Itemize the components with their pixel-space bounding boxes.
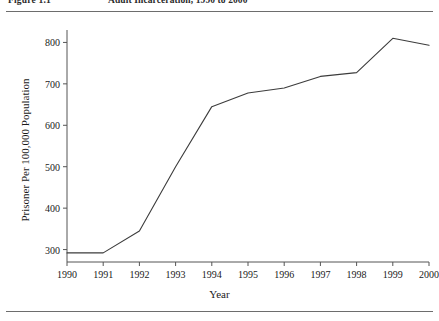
x-tick-label: 1997 xyxy=(310,269,330,280)
x-axis-title: Year xyxy=(0,288,439,300)
figure-container: Figure 1.1 Adult Incarceration, 1990 to … xyxy=(0,0,439,321)
x-tick-label: 2000 xyxy=(419,269,439,280)
x-tick-label: 1996 xyxy=(274,269,294,280)
x-tick-label: 1995 xyxy=(238,269,258,280)
axis-layer xyxy=(67,30,429,262)
axis-ticks xyxy=(63,42,429,266)
x-tick-label: 1993 xyxy=(166,269,186,280)
x-tick-label: 1991 xyxy=(93,269,113,280)
data-series-line xyxy=(67,38,429,253)
x-tick-label: 1998 xyxy=(347,269,367,280)
x-tick-label: 1992 xyxy=(129,269,149,280)
x-tick-label: 1999 xyxy=(383,269,403,280)
y-axis-title: Prisoner Per 100,000 Population xyxy=(19,34,31,266)
x-tick-label: 1990 xyxy=(57,269,77,280)
x-tick-label: 1994 xyxy=(202,269,222,280)
